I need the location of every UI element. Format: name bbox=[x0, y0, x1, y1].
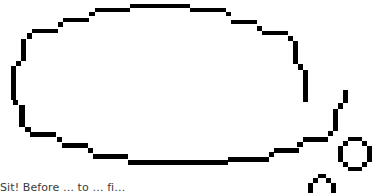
thought-bubble-scene: Sit! Before … to … fi… bbox=[0, 0, 375, 193]
caption-text: Sit! Before … to … fi… bbox=[0, 181, 125, 193]
thought-bubble-icon bbox=[0, 0, 375, 193]
